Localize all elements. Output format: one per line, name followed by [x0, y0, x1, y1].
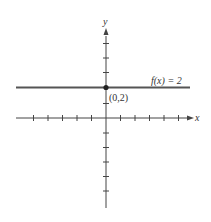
x-axis [16, 115, 194, 121]
point-label: (0,2) [109, 92, 128, 104]
y-axis-label: y [102, 16, 108, 27]
y-axis-arrow-icon [104, 28, 109, 35]
graph-canvas: y x f(x) = 2 (0,2) [0, 0, 211, 222]
x-axis-arrow-icon [187, 116, 194, 121]
x-axis-label: x [194, 112, 200, 123]
point-marker [103, 85, 108, 90]
function-label: f(x) = 2 [151, 75, 182, 87]
